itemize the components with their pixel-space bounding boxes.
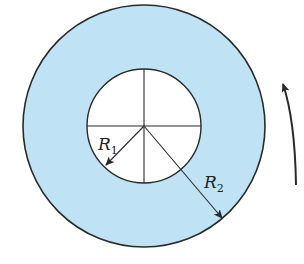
rotation-arrow-icon — [283, 84, 296, 185]
annulus-diagram: R1 R2 — [0, 0, 304, 264]
